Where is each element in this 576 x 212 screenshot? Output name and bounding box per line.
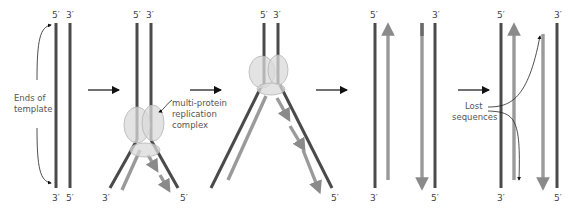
three-prime-label: 3′ — [52, 193, 60, 203]
three-prime-label: 3′ — [102, 193, 110, 203]
new-strand-fragment — [290, 126, 302, 146]
new-strand — [228, 96, 266, 180]
five-prime-label: 5′ — [370, 10, 378, 20]
panel-replication-complete: 5′ 3′ 3′ 5′ — [370, 10, 440, 203]
three-prime-label: 3′ — [146, 10, 154, 20]
replication-complex — [257, 83, 285, 95]
lost-sequences-label: sequences — [452, 112, 498, 122]
replication-complex — [130, 143, 160, 157]
template-strand — [280, 85, 332, 188]
replication-complex — [142, 105, 164, 141]
replication-complex — [268, 55, 288, 85]
ends-of-template-label: Ends of — [14, 93, 46, 103]
complex-label: multi-protein — [172, 98, 227, 108]
five-prime-label: 5′ — [260, 10, 268, 20]
ends-bracket-top-arrow — [37, 25, 51, 80]
three-prime-label: 3′ — [66, 10, 74, 20]
new-strand-fragment — [277, 98, 287, 116]
panel-template-ends: 5′ 3′ 3′ 5′ Ends of template — [14, 10, 74, 203]
panel-lost-sequences: 5′ 3′ Lost sequences 3′ 5′ — [452, 10, 562, 203]
five-prime-label: 5′ — [431, 193, 439, 203]
complex-label: complex — [172, 120, 208, 130]
three-prime-label: 3′ — [370, 193, 378, 203]
panel-replication-start: 5′ 3′ multi-protein replication complex … — [102, 10, 227, 203]
lost-sequences-label: Lost — [465, 101, 483, 111]
five-prime-label: 5′ — [554, 193, 562, 203]
three-prime-label: 3′ — [273, 10, 281, 20]
three-prime-label: 3′ — [497, 193, 505, 203]
new-strand-fragment — [160, 175, 167, 187]
five-prime-label: 5′ — [133, 10, 141, 20]
five-prime-label: 5′ — [331, 193, 339, 203]
ends-of-template-label: template — [14, 104, 52, 114]
panel-replication-fork-progressed: 5′ 3′ 5′ — [211, 10, 339, 203]
end-replication-diagram: 5′ 3′ 3′ 5′ Ends of template 5′ 3′ multi… — [0, 0, 576, 212]
three-prime-label: 3′ — [432, 10, 440, 20]
five-prime-label: 5′ — [497, 10, 505, 20]
complex-label: replication — [172, 109, 217, 119]
three-prime-label: 3′ — [554, 10, 562, 20]
five-prime-label: 5′ — [180, 193, 188, 203]
ends-bracket-bottom-arrow — [37, 128, 51, 183]
five-prime-label: 5′ — [66, 193, 74, 203]
five-prime-label: 5′ — [52, 10, 60, 20]
